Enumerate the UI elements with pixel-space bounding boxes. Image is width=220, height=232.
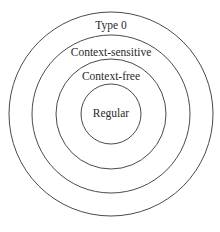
regular-label: Regular [93, 107, 130, 120]
context-sensitive-label: Context-sensitive [71, 46, 152, 58]
type0-label: Type 0 [95, 19, 127, 32]
chomsky-hierarchy-diagram: Type 0 Context-sensitive Context-free Re… [0, 0, 220, 232]
context-free-label: Context-free [82, 70, 140, 82]
